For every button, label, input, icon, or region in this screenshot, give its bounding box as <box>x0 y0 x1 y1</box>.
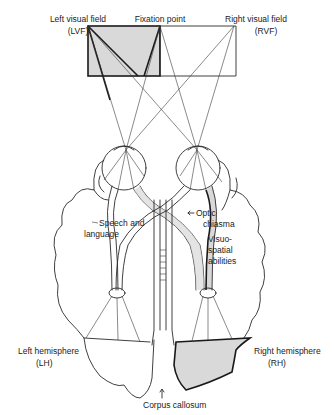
label-speech: Speech and <box>99 218 144 229</box>
label-fixation-point: Fixation point <box>120 14 200 25</box>
label-rh-abbr: (RH) <box>268 358 286 369</box>
label-left-hemisphere: Left hemisphere <box>18 346 79 357</box>
label-lh-abbr: (LH) <box>36 358 53 369</box>
label-right-hemisphere: Right hemisphere <box>254 346 321 357</box>
label-language: language <box>84 229 119 240</box>
label-left-visual-field: Left visual field <box>38 14 118 25</box>
left-eye <box>102 146 146 190</box>
label-lvf-abbr: (LVF) <box>38 26 118 37</box>
label-rvf-abbr: (RVF) <box>236 26 296 37</box>
speech-pointer <box>92 222 98 223</box>
optic-radiations <box>86 296 232 342</box>
label-visuo: Visuo- <box>208 234 232 245</box>
visual-field-box <box>88 26 236 100</box>
corpus-callosum-arrow <box>160 389 164 398</box>
label-corpus-callosum: Corpus callosum <box>143 400 206 411</box>
right-eye <box>176 146 222 190</box>
label-right-visual-field: Right visual field <box>212 14 300 25</box>
label-spatial: spatial <box>208 245 233 256</box>
right-occipital-shaded <box>174 338 250 390</box>
chiasma-arrow <box>188 211 194 215</box>
optic-tracts <box>107 186 216 290</box>
label-optic: Optic <box>196 208 216 219</box>
label-chiasma: chiasma <box>203 219 235 230</box>
label-abilities: abilities <box>208 256 236 267</box>
right-visual-field-outline <box>160 26 236 76</box>
